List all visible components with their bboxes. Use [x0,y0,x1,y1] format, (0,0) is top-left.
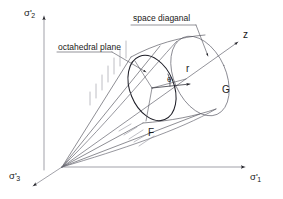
sigma-1-subscript: 1 [257,176,261,183]
stress-space-diagram: σ'2 σ'1 σ'3 octahedral plane space diaga… [0,0,283,199]
sigma-2-subscript: 2 [31,12,35,19]
sigma-3-subscript: 3 [16,175,20,182]
radius-vector [152,84,190,88]
space-diagonal-line [62,42,238,167]
space-diagonal-label: space diaganal [133,14,190,23]
axis-label-sigma-2: σ'2 [24,8,35,19]
z-axis-label: z [243,30,248,40]
f-surface-label: F [148,128,154,138]
axis-label-sigma-3: σ'3 [9,171,20,182]
g-cone-outline [62,41,216,167]
radius-label: r [186,64,189,74]
diagram-canvas [0,0,283,199]
axis-label-sigma-1: σ'1 [250,172,261,183]
g-surface-label: G [222,85,230,95]
octahedral-plane-label: octahedral plane [58,43,121,52]
axis-sigma-3 [33,167,62,186]
theta-label: θ [167,76,171,84]
